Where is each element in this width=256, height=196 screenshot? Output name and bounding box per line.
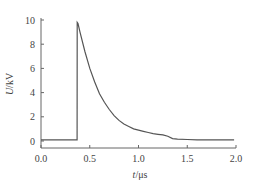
y-tick-label: 8 [30,39,35,50]
pulse-chart: 0246810 0.00.51.01.52.0 t/μs U/kV [0,0,256,196]
voltage-series-line [41,22,234,139]
x-axis: 0.00.51.01.52.0 [35,145,243,164]
y-axis-label: U/kV [4,72,15,95]
y-tick-label: 6 [30,63,35,74]
y-tick-label: 10 [25,15,35,26]
x-tick-label: 0.5 [84,153,97,164]
y-tick-label: 0 [30,136,35,147]
x-tick-label: 1.0 [132,153,145,164]
y-tick-label: 2 [30,111,35,122]
x-axis-label: t/μs [133,169,148,180]
y-tick-label: 4 [30,87,35,98]
y-axis: 0246810 [25,15,44,149]
x-tick-label: 2.0 [230,153,243,164]
x-tick-label: 1.5 [181,153,194,164]
x-tick-label: 0.0 [35,153,48,164]
